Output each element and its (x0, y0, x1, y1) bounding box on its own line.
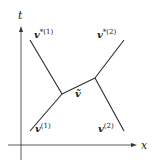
label-v-star-2: v*(2) (97, 28, 116, 40)
label-v-2-sup: (2) (104, 122, 114, 130)
edge-right-node-to-v-star-2 (95, 40, 124, 78)
label-v-2: v(2) (98, 122, 114, 134)
diagram-canvas: t x v*(1) v*(2) ṽ v(1) v(2) (0, 0, 158, 166)
t-axis-label: t (18, 9, 23, 22)
label-v-star-1: v*(1) (34, 28, 53, 40)
label-v-star-1-sup: *(1) (40, 28, 54, 36)
label-v-1: v(1) (35, 122, 51, 134)
t-axis-arrowhead (19, 26, 23, 32)
label-v-star-2-sup: *(2) (103, 28, 117, 36)
x-axis-arrowhead (131, 143, 137, 147)
label-v-tilde: ṽ (75, 88, 81, 99)
edge-v-star-1-to-left-node (30, 40, 62, 94)
label-v-1-sup: (1) (41, 122, 51, 130)
x-axis-label: x (141, 139, 148, 152)
